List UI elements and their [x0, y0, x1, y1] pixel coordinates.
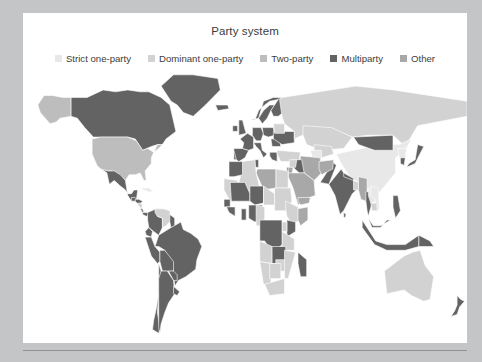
legend-swatch-icon	[400, 55, 407, 62]
legend-item-label: Dominant one-party	[159, 54, 243, 64]
country-region[interactable]	[233, 126, 238, 132]
legend-swatch-icon	[260, 55, 267, 62]
world-map-svg	[23, 71, 467, 339]
country-region[interactable]	[289, 160, 296, 168]
country-region[interactable]	[241, 209, 246, 220]
world-map	[23, 71, 467, 339]
legend-item-multiparty[interactable]: Multiparty	[330, 54, 383, 64]
country-region[interactable]	[224, 199, 230, 207]
bottom-divider	[23, 350, 467, 351]
legend-item-dominant-one-party[interactable]: Dominant one-party	[148, 54, 243, 64]
chart-title: Party system	[23, 25, 467, 37]
country-region[interactable]	[262, 128, 274, 138]
country-region[interactable]	[250, 186, 264, 205]
country-region[interactable]	[276, 169, 288, 188]
legend-item-strict-one-party[interactable]: Strict one-party	[55, 54, 131, 64]
legend-item-two-party[interactable]: Two-party	[260, 54, 313, 64]
country-region[interactable]	[398, 148, 407, 157]
country-region[interactable]	[229, 162, 243, 177]
legend-swatch-icon	[148, 55, 155, 62]
legend-item-other[interactable]: Other	[400, 54, 435, 64]
legend-item-label: Two-party	[271, 54, 313, 64]
legend-swatch-icon	[330, 55, 337, 62]
legend-item-label: Multiparty	[341, 54, 383, 64]
country-region[interactable]	[273, 124, 284, 134]
country-region[interactable]	[270, 264, 281, 279]
legend-item-label: Other	[411, 54, 435, 64]
legend-swatch-icon	[55, 55, 62, 62]
chart-card: Party system Strict one-party Dominant o…	[23, 13, 467, 343]
country-region[interactable]	[354, 181, 359, 190]
legend: Strict one-party Dominant one-party Two-…	[23, 54, 467, 64]
country-region[interactable]	[371, 203, 377, 211]
country-region[interactable]	[282, 222, 287, 231]
legend-item-label: Strict one-party	[66, 54, 131, 64]
